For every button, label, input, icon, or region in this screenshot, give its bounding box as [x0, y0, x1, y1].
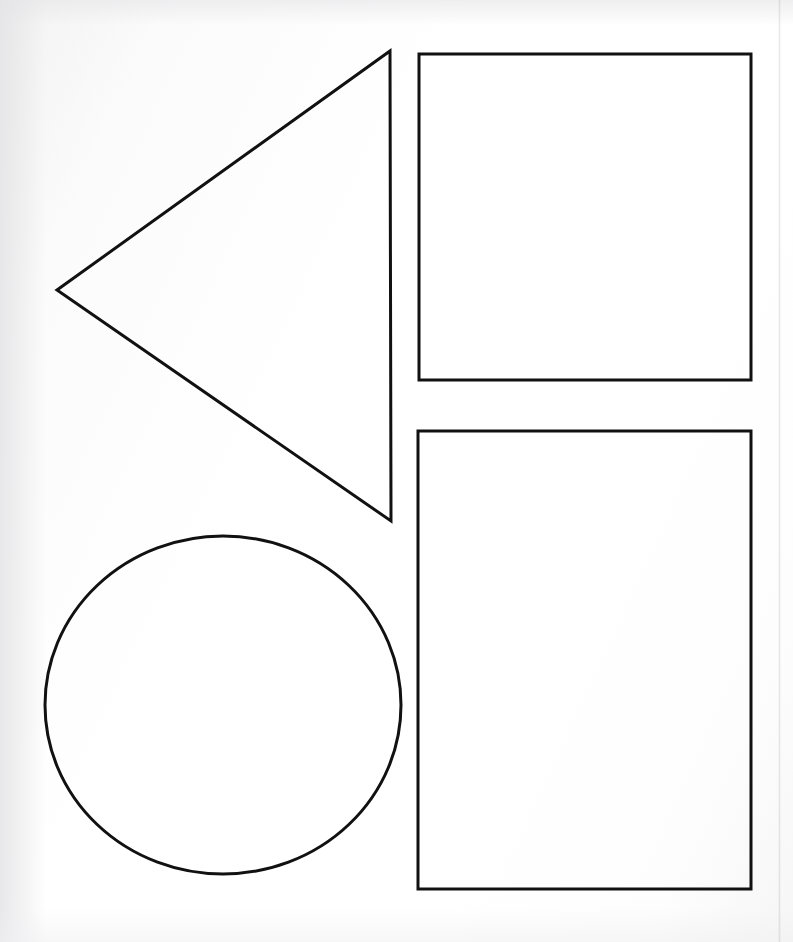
worksheet-page — [0, 0, 793, 942]
square-shape[interactable] — [419, 54, 751, 380]
circle-shape[interactable] — [45, 536, 401, 874]
rectangle-shape[interactable] — [418, 431, 751, 889]
triangle-shape[interactable] — [57, 51, 391, 521]
shapes-canvas — [0, 0, 793, 942]
